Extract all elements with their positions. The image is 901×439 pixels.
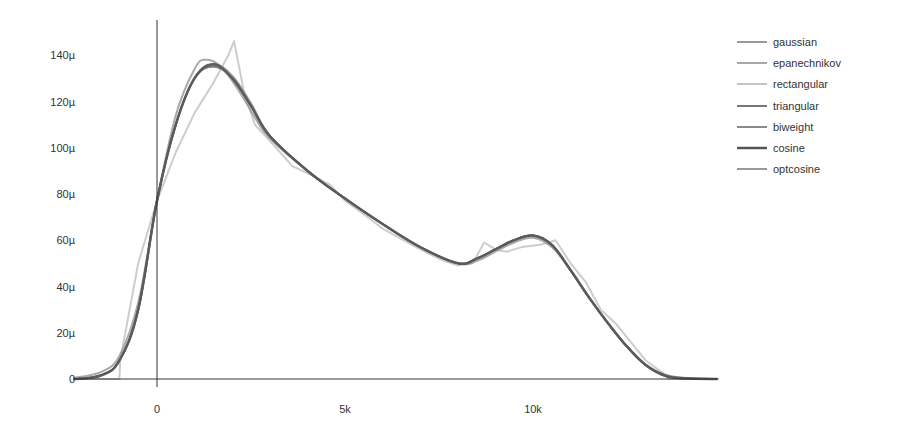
y-tick-label: 60µ (56, 234, 75, 246)
y-tick-label: 100µ (50, 142, 75, 154)
curve-optcosine (74, 64, 717, 379)
curve-rectangular (74, 41, 717, 379)
legend-item-cosine[interactable]: cosine (737, 142, 805, 154)
legend-item-epanechnikov[interactable]: epanechnikov (737, 57, 841, 69)
legend-item-biweight[interactable]: biweight (737, 121, 813, 133)
curve-epanechnikov (74, 64, 717, 379)
y-tick-label: 80µ (56, 188, 75, 200)
legend-item-gaussian[interactable]: gaussian (737, 36, 817, 48)
y-tick-label: 0 (69, 373, 75, 385)
legend-label: triangular (773, 100, 819, 112)
density-chart: 0 20µ 40µ 60µ 80µ 100µ 120µ 140µ 0 5k 10… (0, 0, 901, 439)
curve-cosine (74, 64, 717, 379)
y-tick-label: 20µ (56, 327, 75, 339)
y-tick-label: 40µ (56, 281, 75, 293)
legend-label: optcosine (773, 163, 820, 175)
y-tick-label: 140µ (50, 49, 75, 61)
x-axis-ticks: 0 5k 10k (154, 403, 542, 415)
legend-label: gaussian (773, 36, 817, 48)
legend-item-rectangular[interactable]: rectangular (737, 78, 828, 90)
density-curves (74, 41, 717, 379)
x-tick-label: 5k (339, 403, 351, 415)
legend-label: biweight (773, 121, 813, 133)
curve-biweight (74, 67, 717, 379)
axes (75, 20, 717, 387)
legend: gaussian epanechnikov rectangular triang… (737, 36, 841, 175)
legend-item-triangular[interactable]: triangular (737, 100, 819, 112)
legend-label: cosine (773, 142, 805, 154)
x-tick-label: 10k (524, 403, 542, 415)
y-tick-label: 120µ (50, 96, 75, 108)
y-axis-ticks: 0 20µ 40µ 60µ 80µ 100µ 120µ 140µ (50, 49, 75, 385)
legend-item-optcosine[interactable]: optcosine (737, 163, 820, 175)
legend-label: rectangular (773, 78, 828, 90)
x-tick-label: 0 (154, 403, 160, 415)
curve-triangular (74, 67, 717, 379)
legend-label: epanechnikov (773, 57, 841, 69)
